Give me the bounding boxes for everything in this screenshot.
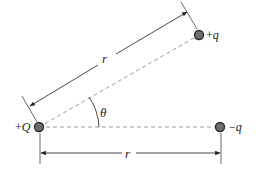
label-positive-q: +q — [206, 28, 219, 42]
coulomb-diagram: r r θ +Q +q −q — [0, 0, 258, 174]
charge-source-Q — [35, 123, 44, 132]
label-negative-q: −q — [229, 120, 242, 134]
angle-arc — [89, 97, 99, 127]
label-source-Q: +Q — [15, 120, 31, 134]
slanted-distance-label: r — [102, 51, 108, 66]
dashed-line-to-positive-q — [39, 35, 199, 127]
slanted-dimension-line-lower — [30, 65, 98, 106]
horizontal-distance-label: r — [125, 146, 131, 161]
charge-positive-q — [195, 31, 204, 40]
extension-line-positive-q — [181, 2, 197, 29]
angle-label: θ — [100, 105, 107, 120]
slanted-dimension-line-upper — [116, 12, 187, 54]
extension-line-source — [22, 96, 37, 122]
charge-negative-q — [216, 123, 225, 132]
